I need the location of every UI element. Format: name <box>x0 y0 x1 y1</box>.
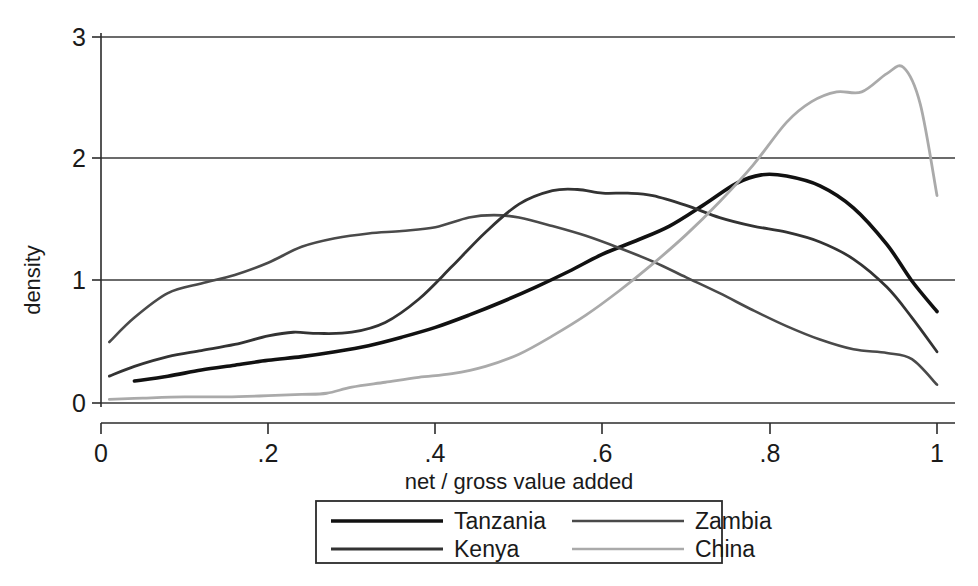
x-tick-label: .8 <box>760 439 781 467</box>
series-line-tanzania <box>134 174 937 381</box>
y-tick-label: 1 <box>72 266 86 294</box>
series-line-china <box>109 66 937 400</box>
legend-label-zambia: Zambia <box>695 508 772 534</box>
legend-label-tanzania: Tanzania <box>454 508 546 534</box>
y-axis-title: density <box>20 245 45 315</box>
legend-label-kenya: Kenya <box>454 536 519 562</box>
x-tick-label: 1 <box>930 439 944 467</box>
series-layer <box>109 66 937 400</box>
density-plot-figure: density 3 2 1 0 <box>0 0 978 586</box>
x-tick-label: .4 <box>425 439 446 467</box>
y-axis-ticks <box>92 37 101 403</box>
x-tick-label: 0 <box>94 439 108 467</box>
x-tick-label: .6 <box>592 439 613 467</box>
y-tick-label: 2 <box>72 144 86 172</box>
legend: Tanzania Zambia Kenya China <box>316 501 772 563</box>
y-tick-labels: 3 2 1 0 <box>72 23 86 417</box>
x-axis-ticks <box>101 423 937 434</box>
y-tick-label: 0 <box>72 389 86 417</box>
legend-label-china: China <box>695 536 755 562</box>
x-tick-labels: 0 .2 .4 .6 .8 1 <box>94 439 944 467</box>
y-tick-label: 3 <box>72 23 86 51</box>
x-axis-title: net / gross value added <box>405 469 634 494</box>
chart-svg: density 3 2 1 0 <box>0 0 978 586</box>
x-tick-label: .2 <box>258 439 279 467</box>
